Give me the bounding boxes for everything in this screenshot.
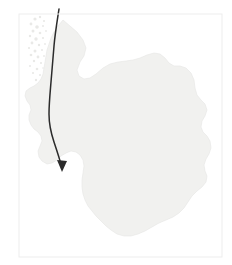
coastal-island-dot bbox=[30, 23, 33, 26]
coastal-island-dot bbox=[29, 35, 31, 37]
coastal-island-dot bbox=[31, 42, 34, 45]
coastal-island-dot bbox=[43, 20, 45, 22]
coastal-island-dot bbox=[39, 16, 41, 18]
coastal-island-dot bbox=[41, 49, 43, 51]
coastal-island-dot bbox=[32, 30, 35, 33]
coastal-island-dot bbox=[34, 37, 37, 40]
coastal-island-dot bbox=[29, 65, 31, 67]
coastal-island-dot bbox=[33, 17, 36, 20]
map-canvas bbox=[0, 0, 232, 265]
coastal-island-dot bbox=[33, 60, 35, 62]
coastal-island-dot bbox=[38, 44, 40, 46]
coastal-island-dot bbox=[37, 56, 40, 59]
coastal-island-dot bbox=[44, 43, 46, 45]
coastal-island-dot bbox=[42, 25, 44, 27]
coastal-island-dot bbox=[35, 79, 37, 81]
coastal-island-dot bbox=[39, 74, 41, 76]
coastal-island-dot bbox=[45, 30, 47, 32]
coastal-island-dot bbox=[32, 72, 34, 74]
coastal-island-dot bbox=[28, 47, 30, 49]
coastal-island-dot bbox=[34, 50, 37, 53]
coastal-island-dot bbox=[42, 67, 44, 69]
coastal-island-dot bbox=[42, 37, 44, 39]
coastal-island-dot bbox=[35, 25, 39, 29]
coastal-island-dot bbox=[30, 54, 33, 57]
coastal-island-dot bbox=[40, 62, 42, 64]
coastal-island-dot bbox=[36, 68, 39, 71]
map-figure bbox=[0, 0, 232, 265]
coastal-island-dot bbox=[43, 55, 45, 57]
coastal-island-dot bbox=[39, 32, 42, 35]
